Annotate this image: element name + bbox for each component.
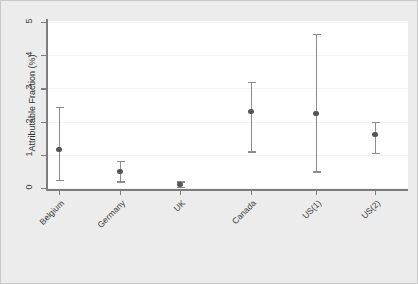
x-tick-label: Belgium	[2, 198, 66, 262]
data-point-marker	[248, 109, 253, 114]
data-point-group	[180, 21, 181, 189]
x-tick-mark	[180, 190, 181, 195]
data-point-marker	[372, 132, 377, 137]
plot-area	[47, 21, 408, 189]
y-tick-mark	[41, 122, 46, 123]
x-tick-label: Germany	[63, 198, 127, 262]
confidence-interval-lower-cap	[372, 153, 380, 154]
y-tick-mark	[41, 188, 46, 189]
data-point-marker	[313, 111, 318, 116]
confidence-interval-line	[59, 107, 60, 180]
x-tick-mark	[251, 190, 252, 195]
x-tick-label: Canada	[194, 198, 258, 262]
data-point-group	[251, 21, 252, 189]
x-tick-mark	[316, 190, 317, 195]
data-layer	[47, 21, 408, 189]
x-tick-label: US(2)	[318, 198, 382, 262]
data-point-group	[59, 21, 60, 189]
confidence-interval-upper-cap	[248, 82, 256, 83]
confidence-interval-lower-cap	[117, 181, 125, 182]
confidence-interval-upper-cap	[56, 107, 64, 108]
confidence-interval-lower-cap	[56, 180, 64, 181]
y-axis-title: Attributable Fraction (%)	[27, 28, 37, 178]
x-axis-line	[46, 189, 408, 191]
x-tick-label: US(1)	[259, 198, 323, 262]
y-tick-mark	[41, 88, 46, 89]
data-point-marker	[56, 147, 61, 152]
y-tick-mark	[41, 55, 46, 56]
data-point-group	[120, 21, 121, 189]
confidence-interval-lower-cap	[313, 171, 321, 172]
confidence-interval-line	[251, 82, 252, 152]
data-point-marker	[177, 182, 182, 187]
confidence-interval-upper-cap	[313, 34, 321, 35]
y-tick-mark	[41, 22, 46, 23]
confidence-interval-line	[316, 34, 317, 172]
y-tick-mark	[41, 155, 46, 156]
x-tick-mark	[59, 190, 60, 195]
confidence-interval-line	[375, 122, 376, 154]
confidence-interval-lower-cap	[248, 151, 256, 152]
x-tick-mark	[375, 190, 376, 195]
chart-figure: 012345 BelgiumGermanyUKCanadaUS(1)US(2) …	[0, 0, 418, 284]
confidence-interval-upper-cap	[372, 122, 380, 123]
confidence-interval-lower-cap	[177, 187, 185, 188]
data-point-group	[316, 21, 317, 189]
confidence-interval-upper-cap	[117, 161, 125, 162]
y-axis-line	[46, 19, 48, 191]
x-tick-label: UK	[123, 198, 187, 262]
data-point-marker	[117, 169, 122, 174]
x-tick-mark	[120, 190, 121, 195]
data-point-group	[375, 21, 376, 189]
y-tick-label: 0	[24, 178, 34, 196]
